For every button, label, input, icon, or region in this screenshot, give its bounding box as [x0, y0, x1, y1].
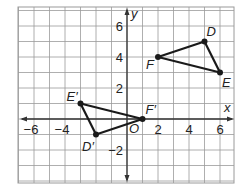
vertex-label: F [146, 57, 155, 72]
x-tick-label: 2 [154, 122, 161, 137]
triangles: DEFD′E′F′ [67, 24, 232, 154]
vertex-label: D′ [82, 139, 94, 154]
vertex-label: F′ [146, 102, 157, 117]
x-tick-label: 6 [216, 122, 223, 137]
vertex-point [93, 132, 99, 138]
y-tick-label: 4 [116, 50, 123, 65]
x-axis-left-arrow-icon [20, 117, 27, 122]
y-tick-label: 2 [116, 81, 123, 96]
vertex-label: E [222, 75, 231, 90]
x-tick-label: −6 [24, 122, 39, 137]
vertex-label: E′ [67, 89, 79, 104]
vertex-point [155, 54, 161, 60]
vertex-label: D [207, 24, 216, 39]
x-tick-label: −4 [55, 122, 70, 137]
x-axis-right-arrow-icon [227, 117, 234, 122]
y-tick-label: −2 [108, 143, 123, 158]
vertex-point [78, 101, 84, 107]
grid-lines [18, 7, 234, 183]
axes: x y O [20, 6, 234, 182]
x-tick-label: 4 [185, 122, 192, 137]
grid-border [18, 7, 234, 183]
vertex-point [202, 39, 208, 45]
y-axis-up-arrow-icon [125, 8, 130, 15]
y-tick-label: 6 [116, 19, 123, 34]
y-axis-label: y [130, 6, 139, 21]
x-axis-label: x [223, 100, 231, 115]
tick-labels: −6−4246642−2 [24, 19, 224, 158]
coordinate-plane: x y O −6−4246642−2 DEFD′E′F′ [0, 0, 248, 192]
